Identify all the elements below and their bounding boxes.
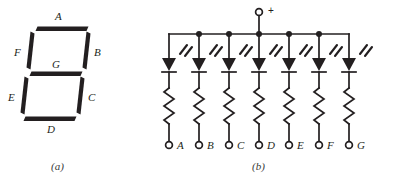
terminal-circle-b[interactable] — [196, 142, 203, 149]
terminal-label-d: D — [267, 140, 275, 151]
led-light-rays-g — [360, 45, 372, 56]
terminal-label-f: F — [327, 140, 334, 151]
segment-label-b: B — [94, 47, 101, 58]
resistor-symbol-d — [254, 88, 264, 124]
segment-label-f: F — [14, 47, 21, 58]
resistor-symbol-b — [194, 88, 204, 124]
resistor-symbol-a — [164, 88, 174, 124]
terminal-circle-a[interactable] — [166, 142, 173, 149]
segment-a-shape — [36, 27, 89, 32]
segment-label-c: C — [88, 92, 95, 103]
segment-f-shape — [27, 32, 35, 70]
bus-junction-dot-supply — [256, 31, 262, 37]
led-triangle-g — [342, 58, 356, 71]
resistor-symbol-g — [344, 88, 354, 124]
bus-junction-dot-e — [286, 31, 292, 37]
resistor-symbol-e — [284, 88, 294, 124]
supply-terminal-circle[interactable] — [256, 9, 263, 16]
led-light-rays-e — [300, 45, 312, 56]
segment-e-shape — [21, 77, 29, 115]
led-triangle-b — [192, 58, 206, 71]
terminal-label-c: C — [237, 140, 244, 151]
terminal-label-e: E — [297, 140, 304, 151]
bus-junction-dot-c — [226, 31, 232, 37]
positive-supply-label: + — [268, 6, 274, 16]
led-light-rays-b — [210, 45, 222, 56]
segment-d-shape — [24, 117, 77, 122]
terminal-circle-c[interactable] — [226, 142, 233, 149]
led-light-rays-d — [270, 45, 282, 56]
caption-panel-a: (a) — [51, 161, 64, 172]
led-triangle-f — [312, 58, 326, 71]
terminal-label-a: A — [177, 140, 184, 151]
led-light-rays-a — [180, 45, 192, 56]
bus-junction-dot-b — [196, 31, 202, 37]
led-light-rays-f — [330, 45, 342, 56]
segment-g-shape — [30, 72, 83, 77]
led-triangle-a — [162, 58, 176, 71]
panel-b-led-schematic: + A B C D E F G (b) — [150, 0, 409, 184]
resistor-symbol-c — [224, 88, 234, 124]
terminal-label-b: B — [207, 140, 214, 151]
led-triangle-c — [222, 58, 236, 71]
panel-a-seven-segment-display: A B C D E F G (a) — [0, 0, 150, 184]
terminal-circle-f[interactable] — [316, 142, 323, 149]
segment-label-a: A — [55, 11, 62, 22]
led-schematic-graphic — [150, 0, 409, 184]
segment-label-g: G — [52, 59, 60, 70]
segment-label-e: E — [8, 92, 15, 103]
figure-root: A B C D E F G (a) — [0, 0, 409, 184]
led-triangle-d — [252, 58, 266, 71]
led-triangle-e — [282, 58, 296, 71]
bus-junction-dot-f — [316, 31, 322, 37]
led-light-rays-c — [240, 45, 252, 56]
terminal-circle-g[interactable] — [346, 142, 353, 149]
terminal-label-g: G — [357, 140, 365, 151]
segment-label-d: D — [47, 124, 55, 135]
terminal-circle-d[interactable] — [256, 142, 263, 149]
caption-panel-b: (b) — [252, 161, 265, 172]
terminal-circle-e[interactable] — [286, 142, 293, 149]
resistor-symbol-f — [314, 88, 324, 124]
seven-segment-display-graphic — [0, 0, 150, 184]
segment-c-shape — [77, 77, 85, 115]
segment-b-shape — [83, 32, 91, 70]
